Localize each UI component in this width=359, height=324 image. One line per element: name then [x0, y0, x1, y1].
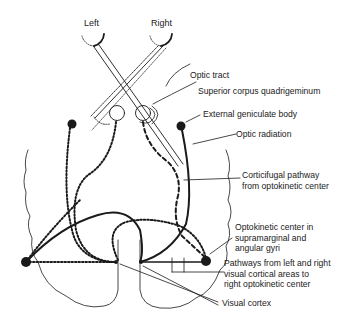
- left-eye-label: Left: [84, 18, 99, 29]
- brain-outline: [24, 150, 231, 308]
- left-superior-colliculus: [110, 106, 125, 121]
- left-optokinetic-center: [21, 257, 31, 267]
- right-optokinetic-center: [201, 256, 211, 266]
- pathways-label: Pathways from left and right visual cort…: [224, 258, 331, 290]
- optokinetic-center-label: Optokinetic center in supramarginal and …: [235, 222, 313, 254]
- right-eye: [150, 34, 172, 46]
- left-eye: [82, 34, 104, 46]
- optic-radiation-label: Optic radiation: [236, 129, 291, 140]
- corticifugal-label: Corticifugal pathway from optokinetic ce…: [242, 170, 329, 191]
- left-optic-radiation: [66, 128, 110, 262]
- right-external-geniculate-body: [177, 122, 186, 131]
- superior-corpus-label: Superior corpus quadrigeminum: [198, 86, 320, 97]
- optic-tract-label: Optic tract: [190, 70, 229, 81]
- right-eye-label: Right: [151, 18, 172, 29]
- right-optic-radiation: [140, 130, 189, 262]
- visual-cortex-label: Visual cortex: [222, 298, 271, 309]
- left-external-geniculate-body: [68, 120, 77, 129]
- external-geniculate-label: External geniculate body: [203, 109, 297, 120]
